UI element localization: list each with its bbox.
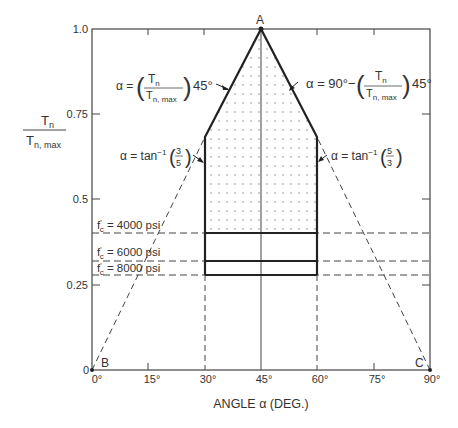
- x-tick-75: 75°: [369, 373, 386, 385]
- concrete-strength-labels: f'c = 4000 psi f'c = 6000 psi f'c = 8000…: [97, 218, 160, 277]
- svg-text:(: (: [136, 72, 145, 102]
- eq-lower-angle: α = tan−1 ( 3 5 ): [120, 146, 204, 168]
- y-tick-05: 0.5: [73, 193, 88, 205]
- svg-text:): ): [402, 70, 411, 100]
- svg-text:α = tan−1: α = tan−1: [120, 148, 167, 163]
- svg-text:45°: 45°: [193, 78, 213, 93]
- svg-text:Tn, max: Tn, max: [366, 87, 397, 102]
- point-a-marker: [259, 27, 264, 32]
- svg-text:): ): [183, 72, 192, 102]
- x-tick-45: 45°: [256, 373, 273, 385]
- svg-text:3: 3: [387, 158, 392, 168]
- svg-text:α = tan−1: α = tan−1: [331, 148, 378, 163]
- svg-text:(: (: [356, 70, 365, 100]
- y-tick-1: 1.0: [73, 23, 88, 35]
- svg-text:): ): [396, 146, 403, 168]
- svg-text:Tn, max: Tn, max: [146, 89, 177, 104]
- x-tick-60: 60°: [312, 373, 329, 385]
- interaction-diagram: A B C 1.0 0.75 0.5 0.25 0 0° 15° 30° 45°…: [0, 0, 458, 428]
- svg-text:3: 3: [176, 146, 181, 156]
- svg-text:45°: 45°: [412, 76, 432, 91]
- svg-text:Tn: Tn: [41, 113, 54, 130]
- y-tick-0: 0: [83, 364, 89, 376]
- eq-upper-angle: α = tan−1 ( 5 3 ): [318, 146, 403, 168]
- svg-text:(: (: [169, 146, 176, 168]
- y-axis-label: Tn Tn, max: [23, 113, 66, 150]
- svg-text:Tn: Tn: [148, 72, 160, 88]
- fc-6000-label: f'c = 6000 psi: [97, 245, 160, 261]
- svg-text:(: (: [380, 146, 387, 168]
- svg-text:Tn, max: Tn, max: [26, 133, 61, 150]
- svg-text:): ): [185, 146, 192, 168]
- svg-text:5: 5: [387, 146, 392, 156]
- point-b-marker: [90, 368, 94, 372]
- eq-left-limit: α = ( Tn Tn, max ) 45°: [116, 72, 229, 104]
- svg-text:α =: α =: [116, 79, 133, 93]
- y-tick-025: 0.25: [67, 279, 88, 291]
- y-tick-075: 0.75: [67, 108, 88, 120]
- x-tick-90: 90°: [424, 373, 441, 385]
- x-tick-30: 30°: [200, 373, 217, 385]
- point-c-marker: [428, 368, 432, 372]
- svg-text:5: 5: [176, 158, 181, 168]
- svg-text:Tn: Tn: [375, 69, 387, 85]
- point-a-label: A: [256, 13, 264, 27]
- eq-right-limit: α = 90°− ( Tn Tn, max ) 45°: [289, 69, 432, 102]
- x-tick-0: 0°: [92, 373, 103, 385]
- svg-text:α = 90°−: α = 90°−: [306, 76, 356, 91]
- point-b-label: B: [101, 356, 109, 370]
- point-c-label: C: [415, 356, 424, 370]
- fc-4000-label: f'c = 4000 psi: [97, 218, 160, 234]
- x-axis-title: ANGLE α (DEG.): [213, 397, 308, 411]
- x-tick-15: 15°: [144, 373, 161, 385]
- line-c-a-dashed: [317, 137, 430, 370]
